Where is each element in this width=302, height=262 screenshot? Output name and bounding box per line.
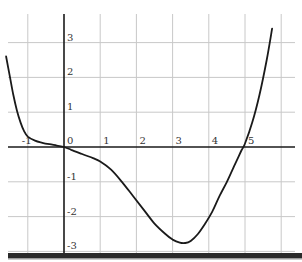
y-tick-label: 2 bbox=[67, 66, 73, 77]
grid bbox=[8, 14, 295, 253]
function-plot: -1012345321-1-2-3 bbox=[0, 0, 302, 262]
y-tick-label: -2 bbox=[67, 206, 77, 217]
x-tick-label: 2 bbox=[139, 135, 145, 146]
x-tick-label: 1 bbox=[103, 135, 109, 146]
x-tick-label: 5 bbox=[248, 135, 254, 146]
y-tick-label: 3 bbox=[67, 32, 73, 43]
y-tick-label: 1 bbox=[67, 101, 73, 112]
x-tick-label: 3 bbox=[176, 135, 182, 146]
bottom-border-shadow bbox=[8, 258, 302, 260]
bottom-border-bar bbox=[8, 253, 302, 258]
x-tick-label: 4 bbox=[212, 135, 218, 146]
axes bbox=[8, 14, 295, 253]
x-tick-label: 0 bbox=[67, 135, 73, 146]
tick-labels: -1012345321-1-2-3 bbox=[22, 32, 255, 252]
y-tick-label: -3 bbox=[67, 240, 77, 251]
y-tick-label: -1 bbox=[67, 171, 77, 182]
